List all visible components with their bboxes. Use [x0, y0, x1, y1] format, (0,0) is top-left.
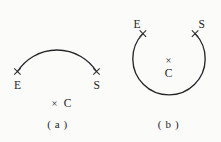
figure-a-center-label: C [64, 97, 72, 109]
figure-b-caption: ( b ) [158, 118, 179, 131]
figure-a-endpoint-e-marker [14, 68, 20, 74]
figure-b-center-label: C [165, 67, 173, 79]
figure-a-center-marker: × [52, 98, 58, 109]
figure-a-label-s: S [93, 79, 99, 91]
figure-b-label-e: E [133, 18, 140, 30]
figure-b-endpoint-s-marker [192, 30, 198, 36]
figure-a-label-e: E [14, 79, 21, 91]
figure-a-caption: ( a ) [47, 118, 68, 131]
figure-a-arc [18, 50, 97, 72]
figure-b-endpoint-e-marker [140, 30, 146, 36]
figure-b-label-s: S [199, 18, 205, 30]
figure-a: E S × C ( a ) [14, 50, 100, 131]
figure-b: E S × C ( b ) [133, 18, 205, 131]
figure-a-endpoint-s-marker [93, 68, 99, 74]
figure-canvas: E S × C ( a ) E S × C ( b ) [0, 0, 221, 142]
figure-b-center-marker: × [166, 55, 172, 66]
